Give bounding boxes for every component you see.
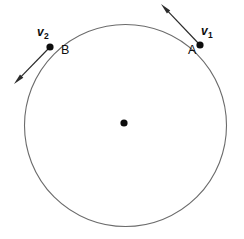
point-B-marker [46, 43, 53, 50]
v2-symbol: v [37, 25, 44, 39]
velocity-vector-v1-label: v1 [201, 25, 212, 37]
v2-subscript: 2 [44, 31, 49, 41]
point-A-label: A [188, 44, 196, 57]
v1-symbol: v [201, 24, 208, 38]
center-point-marker [120, 119, 127, 126]
point-A-marker [196, 41, 203, 48]
point-B-label: B [61, 44, 69, 57]
velocity-vector-v2-label: v2 [37, 26, 48, 38]
v1-subscript: 1 [208, 30, 213, 40]
circular-motion-figure: A B v1 v2 [0, 0, 244, 239]
velocity-vector-v1-shaft [165, 8, 200, 45]
